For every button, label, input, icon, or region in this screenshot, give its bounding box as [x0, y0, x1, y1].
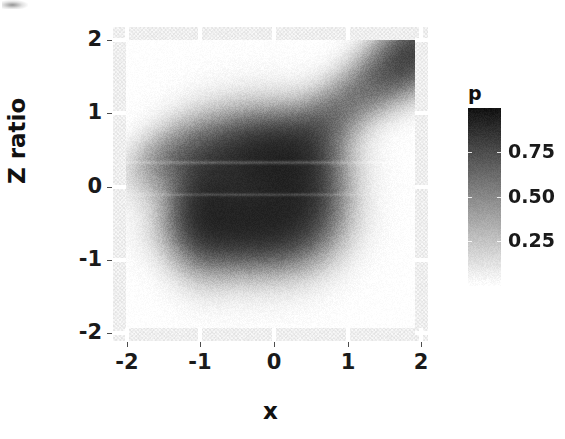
y-axis-title: Z ratio	[6, 98, 29, 184]
plot-panel	[113, 27, 428, 341]
x-tick-label: 1	[328, 352, 368, 373]
y-tick-label: 0	[62, 176, 102, 197]
colorbar-title: p	[468, 84, 482, 103]
y-tick-label: 1	[62, 102, 102, 123]
density-heatmap-canvas	[113, 27, 428, 341]
colorbar-tick-mark	[468, 152, 472, 153]
colorbar-tick-mark	[497, 152, 501, 153]
colorbar-tick-mark	[468, 241, 472, 242]
y-tick-mark	[107, 260, 112, 261]
colorbar-tick-mark	[497, 241, 501, 242]
colorbar-tick-label: 0.25	[508, 231, 555, 250]
y-tick-mark	[107, 333, 112, 334]
y-tick-mark	[107, 113, 112, 114]
x-tick-label: 2	[401, 352, 441, 373]
y-tick-mark	[107, 40, 112, 41]
x-tick-mark	[421, 342, 422, 347]
colorbar-tick-label: 0.75	[508, 142, 555, 161]
x-tick-mark	[127, 342, 128, 347]
x-tick-label: 0	[254, 352, 294, 373]
x-tick-mark	[274, 342, 275, 347]
x-tick-mark	[348, 342, 349, 347]
x-axis-title: x	[113, 400, 428, 423]
y-tick-label: -2	[62, 322, 102, 343]
y-tick-label: -1	[62, 249, 102, 270]
colorbar-tick-label: 0.50	[508, 187, 555, 206]
x-tick-label: -1	[180, 352, 220, 373]
x-tick-label: -2	[107, 352, 147, 373]
colorbar-tick-mark	[468, 197, 472, 198]
x-tick-mark	[200, 342, 201, 347]
colorbar-tick-mark	[497, 197, 501, 198]
y-tick-label: 2	[62, 29, 102, 50]
y-tick-mark	[107, 187, 112, 188]
scan-artifact	[2, 0, 28, 9]
density-plot-figure: -2-1012 210-1-2 x Z ratio p 0.750.500.25	[0, 0, 565, 439]
